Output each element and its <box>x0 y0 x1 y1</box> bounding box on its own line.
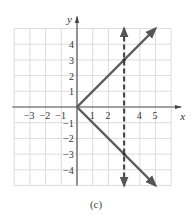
branch-line-1 <box>77 107 156 186</box>
y-tick-label: −1 <box>63 118 74 129</box>
intersection-point <box>123 153 126 156</box>
graph-figure: xy−3−2−112454321−1−2−3−4 (c) <box>0 0 192 217</box>
y-tick-label: 1 <box>69 86 74 97</box>
y-tick-label: −3 <box>63 149 74 160</box>
x-tick-label: 4 <box>137 110 142 121</box>
y-tick-label: −2 <box>63 133 74 144</box>
coordinate-plane: xy−3−2−112454321−1−2−3−4 <box>0 0 192 217</box>
y-axis-label: y <box>66 13 72 25</box>
y-tick-label: 2 <box>69 71 74 82</box>
y-tick-label: −4 <box>63 165 74 176</box>
y-tick-label: 4 <box>69 39 74 50</box>
y-tick-label: 3 <box>69 55 74 66</box>
x-tick-label: 2 <box>105 110 110 121</box>
branch-line-0 <box>77 29 156 108</box>
x-tick-label: −3 <box>24 110 35 121</box>
x-tick-label: 5 <box>153 110 158 121</box>
figure-caption: (c) <box>0 198 192 210</box>
intersection-point <box>123 58 126 61</box>
x-axis-label: x <box>179 110 185 122</box>
x-tick-label: −2 <box>40 110 51 121</box>
